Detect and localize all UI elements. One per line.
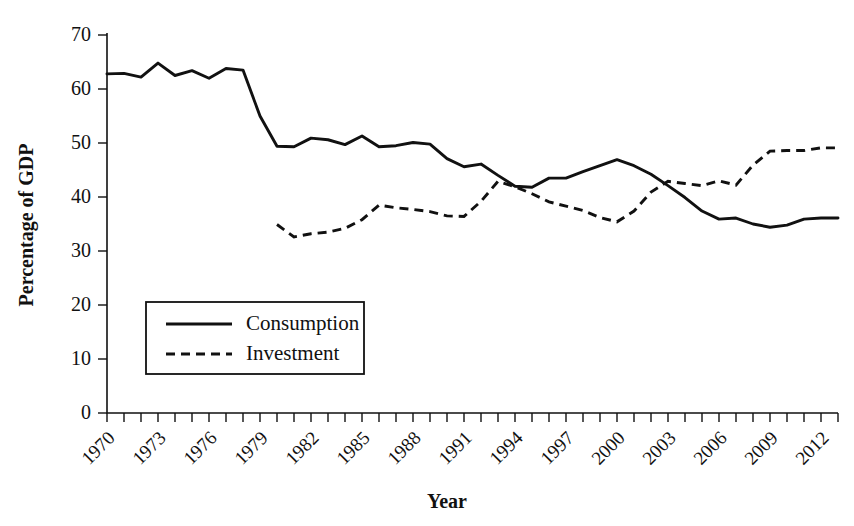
x-tick-label: 1985: [332, 427, 374, 469]
x-tick-label: 1991: [434, 427, 476, 469]
y-tick-label: 30: [71, 239, 91, 261]
legend-label-investment: Investment: [246, 341, 339, 365]
gdp-percentage-line-chart: 010203040506070 197019731976197919821985…: [0, 0, 854, 526]
x-tick-label: 2009: [740, 427, 782, 469]
x-axis-title: Year: [427, 490, 467, 512]
x-tick-label: 1973: [128, 427, 170, 469]
y-tick-label: 40: [71, 185, 91, 207]
y-axis-title: Percentage of GDP: [15, 144, 38, 307]
y-tick-label: 20: [71, 293, 91, 315]
x-tick-label: 2003: [638, 427, 680, 469]
series-line-consumption: [107, 63, 838, 227]
x-tick-label: 1988: [383, 427, 425, 469]
chart-series: [107, 63, 838, 237]
y-tick-label: 50: [71, 131, 91, 153]
y-tick-label: 60: [71, 77, 91, 99]
x-tick-label: 1982: [281, 427, 323, 469]
x-axis-tick-labels: 1970197319761979198219851988199119941997…: [77, 427, 833, 469]
y-tick-label: 0: [81, 401, 91, 423]
y-tick-label: 70: [71, 23, 91, 45]
x-tick-label: 2006: [689, 427, 731, 469]
x-tick-label: 2000: [587, 427, 629, 469]
x-tick-label: 1994: [485, 427, 527, 469]
chart-container: 010203040506070 197019731976197919821985…: [0, 0, 854, 526]
x-tick-label: 2012: [791, 427, 833, 469]
x-axis-ticks: [107, 413, 838, 422]
y-axis-ticks: [98, 35, 107, 413]
y-tick-label: 10: [71, 347, 91, 369]
x-tick-label: 1997: [536, 427, 578, 469]
legend-label-consumption: Consumption: [246, 311, 360, 335]
x-tick-label: 1970: [77, 427, 119, 469]
x-tick-label: 1979: [230, 427, 272, 469]
chart-legend: Consumption Investment: [146, 302, 364, 374]
y-axis-tick-labels: 010203040506070: [71, 23, 91, 423]
x-tick-label: 1976: [179, 427, 221, 469]
